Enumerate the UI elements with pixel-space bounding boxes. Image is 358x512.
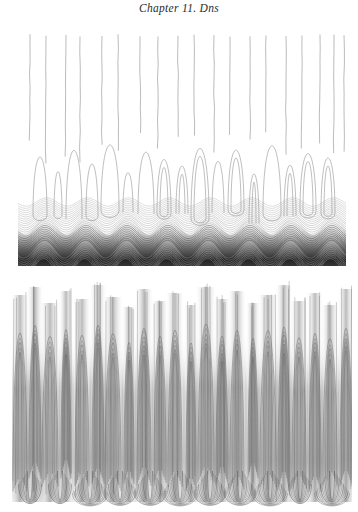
dns-contour-plot-top [18, 34, 346, 266]
contour-svg-bottom [12, 277, 352, 512]
page-running-head: Chapter 11. Dns [0, 2, 358, 14]
document-page: Chapter 11. Dns [0, 0, 358, 512]
dns-contour-plot-bottom [12, 277, 352, 512]
contour-svg-top [18, 34, 346, 266]
